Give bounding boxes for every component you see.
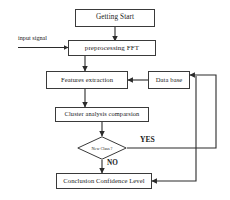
node-data-base[interactable]: Data base xyxy=(148,71,190,89)
label-no: NO xyxy=(107,160,118,167)
node-data-base-label: Data base xyxy=(156,77,183,84)
node-preprocessing-label: preprocessing FFT xyxy=(85,45,139,52)
flowchart-connectors xyxy=(0,0,230,200)
node-cluster-analysis[interactable]: Cluster analysis comparsion xyxy=(55,107,149,122)
label-yes-text: YES xyxy=(140,135,155,144)
label-input-signal-text: input signal xyxy=(18,34,47,41)
node-getting-start-label: Getting Start xyxy=(96,14,134,21)
node-features-extraction-label: Features extraction xyxy=(61,77,113,84)
node-decision-new-class[interactable]: New Class ? xyxy=(77,136,127,160)
label-no-text: NO xyxy=(107,159,118,167)
edge-database-to-conclusion xyxy=(152,76,196,181)
label-input-signal: input signal xyxy=(18,35,47,41)
label-yes: YES xyxy=(140,136,155,144)
node-cluster-analysis-label: Cluster analysis comparsion xyxy=(65,111,140,117)
node-preprocessing[interactable]: preprocessing FFT xyxy=(68,40,156,56)
node-decision-label: New Class ? xyxy=(92,146,113,151)
node-features-extraction[interactable]: Features extraction xyxy=(46,71,128,89)
flowchart-canvas: Getting Start input signal preprocessing… xyxy=(0,0,230,200)
node-getting-start[interactable]: Getting Start xyxy=(75,9,155,27)
node-conclusion-label: Conclusion Confidence Level xyxy=(63,178,144,185)
node-conclusion-confidence-level[interactable]: Conclusion Confidence Level xyxy=(56,173,152,189)
